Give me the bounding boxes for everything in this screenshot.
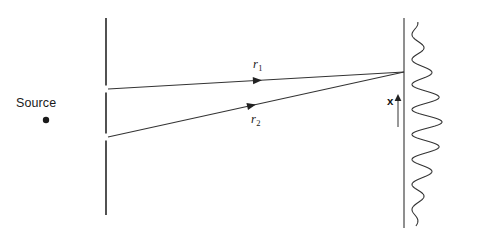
ray-r1-label: r1 [253,57,262,72]
ray-r2-arrowhead [246,101,256,110]
x-axis-label: x [387,95,393,107]
diagram-canvas [0,0,481,238]
source-dot [43,117,49,123]
x-axis-arrowhead [395,94,402,101]
double-slit-diagram: Source r1 r2 x [0,0,481,238]
ray-r1-arrowhead [253,77,262,85]
interference-pattern-curve [412,22,442,226]
source-label: Source [16,96,56,110]
ray-r2-label: r2 [251,112,260,127]
